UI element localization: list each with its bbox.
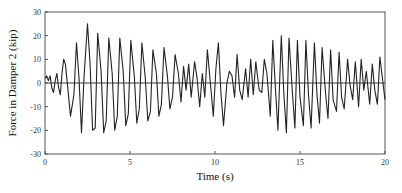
x-tick-label: 15 — [296, 158, 304, 167]
x-axis-title: Time (s) — [196, 170, 234, 183]
y-tick-label: -30 — [30, 150, 41, 159]
x-tick-label: 5 — [128, 158, 132, 167]
x-axis: 05101520 — [43, 151, 389, 167]
damper-force-chart: -30-20-100102030 05101520 Time (s) Force… — [0, 0, 402, 193]
y-tick-label: 30 — [33, 8, 41, 17]
y-axis-title: Force in Damper 2 (kip) — [6, 29, 19, 136]
x-tick-label: 0 — [43, 158, 47, 167]
y-tick-label: -10 — [30, 103, 41, 112]
y-tick-label: 0 — [37, 79, 41, 88]
y-tick-label: -20 — [30, 126, 41, 135]
x-tick-label: 20 — [381, 158, 389, 167]
y-tick-label: 10 — [33, 55, 41, 64]
x-tick-label: 10 — [211, 158, 219, 167]
y-tick-label: 20 — [33, 32, 41, 41]
force-time-series-line — [45, 24, 385, 133]
